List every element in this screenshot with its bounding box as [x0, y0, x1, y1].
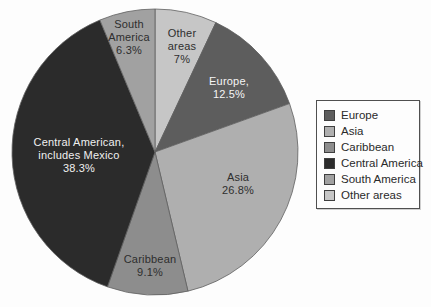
legend-swatch	[324, 158, 335, 169]
legend-item-label: South America	[341, 173, 416, 185]
legend: EuropeAsiaCaribbeanCentral AmericaSouth …	[316, 100, 420, 209]
legend-item-label: Caribbean	[341, 141, 394, 153]
legend-item-europe: Europe	[324, 107, 413, 123]
legend-swatch	[324, 142, 335, 153]
legend-item-label: Europe	[341, 109, 378, 121]
pie-chart-figure: Otherareas7%Europe,12.5%Asia26.8%Caribbe…	[0, 0, 431, 307]
legend-item-caribbean: Caribbean	[324, 139, 413, 155]
legend-item-label: Asia	[341, 125, 363, 137]
legend-swatch	[324, 126, 335, 137]
legend-item-other-areas: Other areas	[324, 187, 413, 203]
legend-item-asia: Asia	[324, 123, 413, 139]
legend-swatch	[324, 174, 335, 185]
legend-items: EuropeAsiaCaribbeanCentral AmericaSouth …	[324, 107, 413, 203]
legend-item-label: Central America	[341, 157, 423, 169]
legend-item-central-america: Central America	[324, 155, 413, 171]
legend-item-south-america: South America	[324, 171, 413, 187]
legend-swatch	[324, 110, 335, 121]
legend-swatch	[324, 190, 335, 201]
legend-item-label: Other areas	[341, 189, 402, 201]
